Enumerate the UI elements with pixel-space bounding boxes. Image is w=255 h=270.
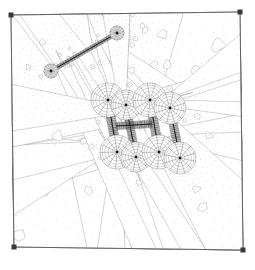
vertex-node <box>169 107 172 110</box>
mesh-node <box>42 150 43 151</box>
mesh-figure <box>0 0 255 270</box>
mesh-node <box>102 166 103 167</box>
mesh-node <box>76 116 77 117</box>
mesh-node <box>19 78 20 79</box>
mesh-node <box>16 205 17 206</box>
mesh-node <box>90 84 91 85</box>
mesh-node <box>85 109 86 110</box>
mesh-node <box>221 134 222 135</box>
mesh-node <box>101 59 102 60</box>
mesh-node <box>52 206 53 207</box>
mesh-node <box>222 54 223 55</box>
mesh-node <box>151 176 152 177</box>
mesh-node <box>158 47 159 48</box>
mesh-node <box>115 70 116 71</box>
mesh-node <box>152 36 153 37</box>
mesh-node <box>141 47 142 48</box>
mesh-node <box>219 173 220 174</box>
mesh-node <box>118 66 119 67</box>
mesh-node <box>237 55 238 56</box>
mesh-node <box>203 148 204 149</box>
mesh-node <box>123 69 124 70</box>
mesh-node <box>237 33 238 34</box>
mesh-node <box>79 26 80 27</box>
mesh-node <box>226 169 227 170</box>
mesh-node <box>109 172 110 173</box>
mesh-node <box>28 75 29 76</box>
mesh-node <box>97 85 98 86</box>
mesh-node <box>90 211 91 212</box>
mesh-node <box>205 188 206 189</box>
mesh-node <box>193 135 194 136</box>
mesh-node <box>59 168 60 169</box>
mesh-node <box>220 91 221 92</box>
mesh-node <box>227 95 228 96</box>
mesh-node <box>170 173 171 174</box>
mesh-node <box>97 21 98 22</box>
mesh-node <box>128 24 129 25</box>
mesh-node <box>90 132 91 133</box>
mesh-node <box>170 88 171 89</box>
mesh-node <box>99 72 100 73</box>
mesh-node <box>223 26 224 27</box>
mesh-node <box>96 144 97 145</box>
mesh-node <box>231 144 232 145</box>
mesh-node <box>120 62 121 63</box>
mesh-node <box>52 23 53 24</box>
mesh-node <box>193 106 194 107</box>
mesh-node <box>14 88 15 89</box>
mesh-node <box>122 14 123 15</box>
mesh-node <box>44 91 45 92</box>
mesh-node <box>52 48 53 49</box>
mesh-node <box>129 186 130 187</box>
mesh-node <box>188 15 189 16</box>
mesh-node <box>50 51 51 52</box>
mesh-node <box>210 230 211 231</box>
mesh-node <box>150 195 151 196</box>
mesh-node <box>96 141 97 142</box>
mesh-node <box>187 114 188 115</box>
mesh-node <box>25 55 26 56</box>
mesh-node <box>158 177 159 178</box>
mesh-node <box>212 170 213 171</box>
mesh-node <box>142 26 143 27</box>
mesh-node <box>101 187 102 188</box>
mesh-node <box>150 79 151 80</box>
mesh-node <box>101 176 102 177</box>
mesh-node <box>231 163 232 164</box>
mesh-node <box>119 16 120 17</box>
mesh-node <box>15 141 16 142</box>
mesh-node <box>210 120 211 121</box>
mesh-node <box>191 142 192 143</box>
vertex-node <box>125 104 128 107</box>
mesh-node <box>15 120 16 121</box>
mesh-node <box>64 45 65 46</box>
mesh-node <box>183 216 184 217</box>
mesh-node <box>64 149 65 150</box>
mesh-node <box>204 128 205 129</box>
mesh-node <box>180 24 181 25</box>
mesh-node <box>134 76 135 77</box>
mesh-node <box>180 199 181 200</box>
mesh-node <box>196 204 197 205</box>
mesh-node <box>138 223 139 224</box>
mesh-node <box>196 77 197 78</box>
mesh-node <box>93 125 94 126</box>
mesh-node <box>228 107 229 108</box>
mesh-node <box>191 199 192 200</box>
mesh-node <box>208 135 209 136</box>
mesh-node <box>85 31 86 32</box>
mesh-node <box>210 158 211 159</box>
mesh-node <box>177 180 178 181</box>
mesh-node <box>98 15 99 16</box>
mesh-node <box>198 143 199 144</box>
mesh-node <box>123 186 124 187</box>
mesh-node <box>170 36 171 37</box>
mesh-node <box>146 16 147 17</box>
mesh-node <box>237 44 238 45</box>
mesh-node <box>71 138 72 139</box>
mesh-node <box>218 45 219 46</box>
mesh-node <box>108 63 109 64</box>
mesh-node <box>176 49 177 50</box>
mesh-node <box>101 196 102 197</box>
